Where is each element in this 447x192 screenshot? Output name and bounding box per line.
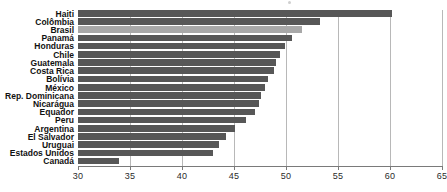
bar-argentina <box>78 125 235 132</box>
bar-col-mbia <box>78 18 320 25</box>
x-tick-60 <box>390 166 391 170</box>
x-tick-65 <box>442 166 443 170</box>
category-label-canad-: Canadá <box>43 157 74 166</box>
x-tick-55 <box>338 166 339 170</box>
bars-layer <box>78 10 442 166</box>
bar-row <box>78 67 442 75</box>
bar-canad- <box>78 158 119 165</box>
bar-row <box>78 35 442 43</box>
bar-uruguai <box>78 141 219 148</box>
bar-row <box>78 76 442 84</box>
bar-row <box>78 100 442 108</box>
bar-row <box>78 84 442 92</box>
bar-rep-dominicana <box>78 92 261 99</box>
bar-estados-unidos <box>78 150 213 157</box>
gridline-65 <box>442 10 443 166</box>
x-tick-50 <box>286 166 287 170</box>
x-tick-label-30: 30 <box>73 171 83 181</box>
bar-guatemala <box>78 59 276 66</box>
x-tick-label-55: 55 <box>333 171 343 181</box>
x-tick-label-50: 50 <box>281 171 291 181</box>
bar-honduras <box>78 43 285 50</box>
bar-row <box>78 125 442 133</box>
x-tick-label-45: 45 <box>229 171 239 181</box>
bar-peru <box>78 117 246 124</box>
x-tick-label-35: 35 <box>125 171 135 181</box>
bar-row <box>78 59 442 67</box>
bar-m-xico <box>78 84 265 91</box>
plot-area <box>78 10 442 166</box>
bar-row <box>78 10 442 18</box>
bar-haiti <box>78 10 392 17</box>
bar-row <box>78 109 442 117</box>
bar-row <box>78 43 442 51</box>
x-tick-40 <box>182 166 183 170</box>
x-tick-label-60: 60 <box>385 171 395 181</box>
top-marker-dot <box>288 1 291 4</box>
bar-bol-via <box>78 76 268 83</box>
bar-row <box>78 141 442 149</box>
bar-nicar-gua <box>78 100 259 107</box>
x-tick-label-65: 65 <box>437 171 447 181</box>
bar-el-salvador <box>78 133 226 140</box>
bar-row <box>78 117 442 125</box>
bar-row <box>78 51 442 59</box>
bar-brasil <box>78 26 302 33</box>
bar-row <box>78 26 442 34</box>
bar-row <box>78 158 442 166</box>
bar-row <box>78 133 442 141</box>
bar-chile <box>78 51 280 58</box>
bar-equador <box>78 109 255 116</box>
category-axis-labels: HaitiColômbiaBrasilPanamáHondurasChileGu… <box>0 10 74 166</box>
bar-costa-rica <box>78 67 274 74</box>
x-tick-45 <box>234 166 235 170</box>
bar-row <box>78 18 442 26</box>
x-tick-35 <box>130 166 131 170</box>
bar-row <box>78 150 442 158</box>
x-tick-30 <box>78 166 79 170</box>
x-tick-label-40: 40 <box>177 171 187 181</box>
bar-panam- <box>78 35 292 42</box>
bar-row <box>78 92 442 100</box>
x-axis-line <box>78 166 442 167</box>
